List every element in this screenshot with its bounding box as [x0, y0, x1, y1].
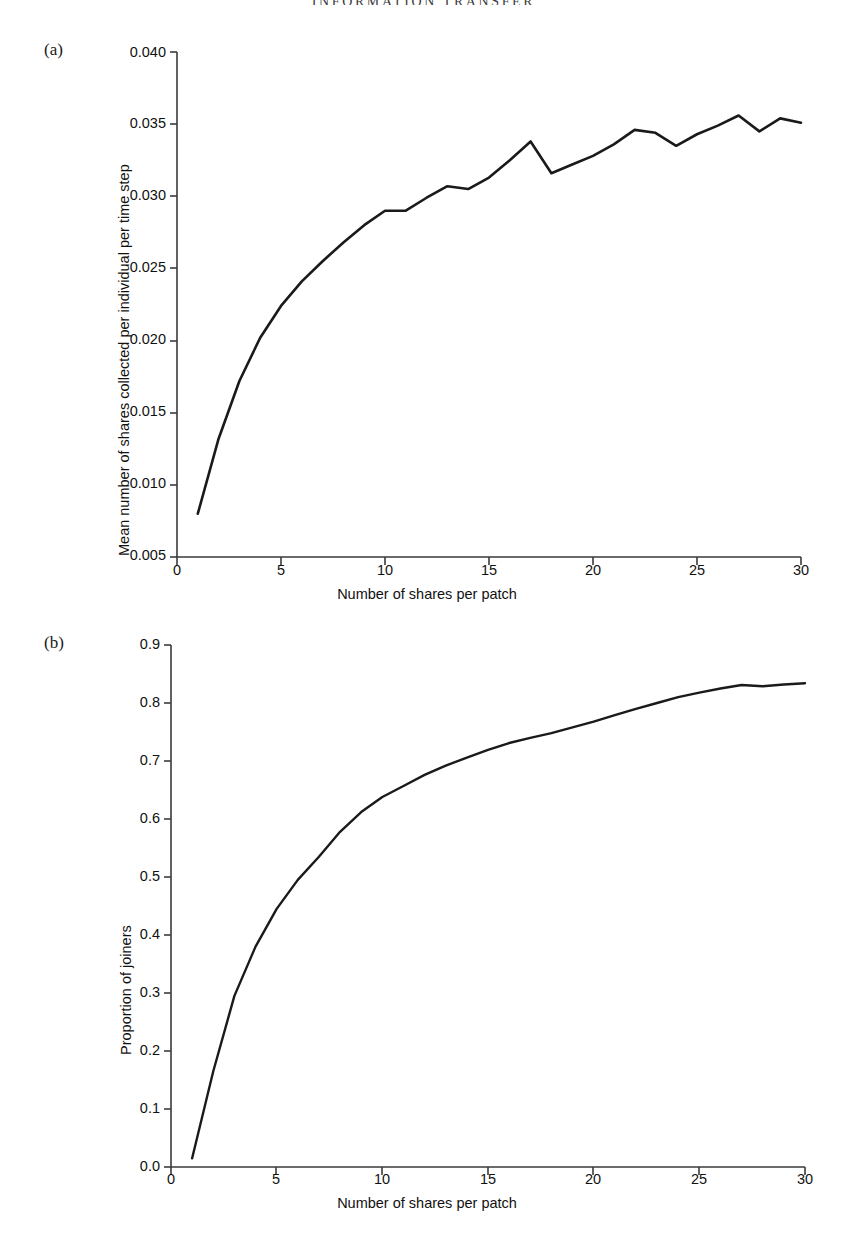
panel-b-x-tick-4: 20	[573, 1171, 613, 1187]
panel-b-y-tick-3: 0.6	[116, 810, 160, 826]
panel-b-svg	[164, 637, 819, 1212]
panel-b-data-line	[192, 683, 805, 1158]
running-head: INFORMATION TRANSFER	[0, 0, 847, 5]
panel-b-y-tick-1: 0.8	[116, 694, 160, 710]
panel-a-y-tick-5: 0.015	[112, 403, 166, 419]
panel-a-label: (a)	[44, 40, 63, 60]
panel-a-y-axis-title: Mean number of shares collected per indi…	[116, 164, 132, 556]
panel-b-y-tick-5: 0.4	[116, 926, 160, 942]
panel-a-y-tick-2: 0.030	[112, 187, 166, 203]
panel-a-svg	[170, 44, 815, 589]
panel-b-y-tick-4: 0.5	[116, 868, 160, 884]
panel-a-y-ticks	[170, 52, 177, 557]
panel-b-y-tick-2: 0.7	[116, 752, 160, 768]
panel-a-y-tick-4: 0.020	[112, 331, 166, 347]
panel-b-y-tick-8: 0.1	[116, 1100, 160, 1116]
panel-a-axis-lines	[177, 52, 801, 557]
panel-a-plot-area	[170, 44, 815, 589]
panel-a-y-tick-0: 0.040	[112, 44, 166, 60]
panel-b-y-tick-6: 0.3	[116, 984, 160, 1000]
panel-b-x-tick-1: 5	[256, 1171, 296, 1187]
figure-panel-b: (b) Proportion of joiners 0.9 0.8 0.7 0.…	[0, 625, 847, 1235]
panel-a-x-tick-3: 15	[469, 562, 509, 578]
panel-b-y-ticks	[164, 645, 171, 1167]
panel-a-x-tick-6: 30	[781, 562, 821, 578]
panel-a-x-tick-5: 25	[677, 562, 717, 578]
panel-a-x-tick-2: 10	[365, 562, 405, 578]
panel-b-axis-lines	[171, 645, 805, 1167]
panel-b-x-tick-0: 0	[151, 1171, 191, 1187]
panel-b-x-tick-6: 30	[785, 1171, 825, 1187]
panel-a-x-tick-4: 20	[573, 562, 613, 578]
panel-b-y-tick-7: 0.2	[116, 1042, 160, 1058]
panel-a-x-tick-1: 5	[261, 562, 301, 578]
panel-b-label: (b)	[44, 633, 64, 653]
panel-b-x-tick-5: 25	[679, 1171, 719, 1187]
panel-b-x-tick-2: 10	[362, 1171, 402, 1187]
panel-a-y-tick-1: 0.035	[112, 115, 166, 131]
panel-a-y-tick-3: 0.025	[112, 259, 166, 275]
panel-b-plot-area	[164, 637, 819, 1212]
panel-a-y-tick-6: 0.010	[112, 475, 166, 491]
panel-b-x-axis-title: Number of shares per patch	[277, 1195, 577, 1211]
panel-b-x-tick-3: 15	[468, 1171, 508, 1187]
panel-a-y-tick-7: 0.005	[112, 547, 166, 563]
figure-panel-a: (a) Mean number of shares collected per …	[0, 34, 847, 604]
panel-a-x-tick-0: 0	[157, 562, 197, 578]
panel-b-y-tick-0: 0.9	[116, 636, 160, 652]
panel-a-data-line	[198, 115, 801, 513]
panel-a-x-axis-title: Number of shares per patch	[277, 586, 577, 602]
